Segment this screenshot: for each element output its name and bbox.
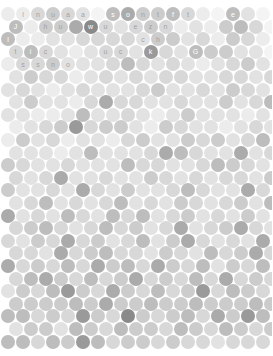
grid-dot — [136, 259, 150, 273]
grid-dot — [121, 133, 135, 147]
grid-dot — [256, 183, 270, 197]
grid-dot — [61, 183, 75, 197]
dot-letter: f — [172, 11, 174, 18]
dot-letter: t — [187, 11, 189, 18]
grid-dot — [69, 70, 83, 84]
grid-dot — [121, 309, 135, 323]
grid-dot — [234, 196, 248, 210]
grid-dot — [211, 133, 225, 147]
grid-dot — [226, 335, 240, 349]
grid-dot — [31, 309, 45, 323]
grid-dot — [264, 196, 273, 210]
grid-dot — [16, 32, 30, 46]
grid-dot — [106, 32, 120, 46]
grid-dot: s — [106, 7, 120, 21]
grid-dot — [256, 309, 270, 323]
grid-dot — [1, 259, 15, 273]
grid-dot — [114, 221, 128, 235]
grid-dot — [226, 309, 240, 323]
grid-dot — [151, 309, 165, 323]
grid-dot — [136, 183, 150, 197]
grid-dot — [249, 70, 263, 84]
grid-dot — [249, 95, 263, 109]
grid-dot — [241, 259, 255, 273]
grid-dot — [106, 158, 120, 172]
dot-letter: t — [157, 11, 159, 18]
grid-dot — [46, 32, 60, 46]
grid-dot — [31, 259, 45, 273]
grid-dot — [91, 183, 105, 197]
grid-dot — [91, 284, 105, 298]
dot-letter: e — [231, 11, 235, 18]
grid-dot — [121, 158, 135, 172]
grid-dot — [226, 133, 240, 147]
dot-letter: c — [44, 48, 48, 55]
grid-dot — [1, 335, 15, 349]
grid-dot — [114, 70, 128, 84]
grid-dot — [196, 158, 210, 172]
grid-dot: t — [181, 7, 195, 21]
grid-dot — [196, 183, 210, 197]
grid-dot — [106, 133, 120, 147]
grid-dot — [136, 335, 150, 349]
dot-letter: o — [126, 11, 130, 18]
grid-dot — [196, 335, 210, 349]
grid-dot — [16, 284, 30, 298]
grid-dot — [91, 158, 105, 172]
grid-dot — [129, 221, 143, 235]
grid-dot — [166, 158, 180, 172]
grid-dot — [234, 322, 248, 336]
grid-dot: n — [136, 7, 150, 21]
dot-letter: l — [7, 36, 9, 43]
grid-dot — [181, 158, 195, 172]
grid-dot — [61, 335, 75, 349]
grid-dot — [121, 259, 135, 273]
grid-dot — [256, 7, 270, 21]
dot-letter: o — [66, 61, 70, 68]
grid-dot — [16, 309, 30, 323]
dot-letter: s — [36, 61, 40, 68]
grid-dot — [46, 133, 60, 147]
dot-letter: n — [36, 11, 40, 18]
grid-dot — [46, 335, 60, 349]
dot-letter: h — [44, 23, 48, 30]
grid-dot — [84, 70, 98, 84]
grid-dot — [46, 309, 60, 323]
grid-dot — [46, 284, 60, 298]
grid-dot — [166, 183, 180, 197]
grid-dot — [256, 284, 270, 298]
grid-dot — [181, 133, 195, 147]
grid-dot — [121, 57, 135, 71]
dot-letter: u — [104, 23, 108, 30]
grid-dot — [144, 322, 158, 336]
grid-dot — [174, 70, 188, 84]
grid-dot — [1, 183, 15, 197]
grid-dot — [226, 158, 240, 172]
grid-dot — [226, 32, 240, 46]
grid-dot — [159, 221, 173, 235]
grid-dot — [91, 32, 105, 46]
grid-dot — [24, 221, 38, 235]
grid-dot: n — [46, 57, 60, 71]
dot-letter: z — [149, 23, 153, 30]
grid-dot — [241, 32, 255, 46]
grid-dot — [106, 284, 120, 298]
grid-dot — [99, 322, 113, 336]
grid-dot — [54, 196, 68, 210]
grid-dot — [24, 70, 38, 84]
grid-dot — [121, 284, 135, 298]
grid-dot — [61, 32, 75, 46]
dot-letter: h — [156, 36, 160, 43]
grid-dot — [234, 95, 248, 109]
grid-dot — [121, 335, 135, 349]
grid-dot — [106, 259, 120, 273]
dot-letter: s — [21, 61, 25, 68]
grid-dot — [129, 95, 143, 109]
grid-dot — [61, 259, 75, 273]
grid-dot — [76, 32, 90, 46]
grid-dot — [69, 221, 83, 235]
grid-dot — [61, 133, 75, 147]
grid-dot — [39, 70, 53, 84]
grid-dot — [136, 309, 150, 323]
grid-dot — [241, 158, 255, 172]
